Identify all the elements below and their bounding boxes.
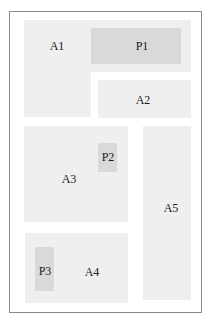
panel-p3-label: P3 xyxy=(39,264,52,279)
area-a4-label: A4 xyxy=(85,265,100,280)
panel-p1-label: P1 xyxy=(136,39,149,54)
area-a2-label: A2 xyxy=(136,93,151,108)
area-a3-label: A3 xyxy=(62,172,77,187)
area-a5-label: A5 xyxy=(164,201,179,216)
area-a1-label: A1 xyxy=(50,39,65,54)
panel-p2-label: P2 xyxy=(102,150,115,165)
area-a1-bottom xyxy=(24,72,91,117)
